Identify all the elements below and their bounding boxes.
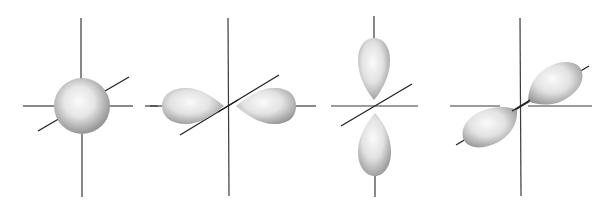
px-orbital-panel — [150, 18, 316, 196]
z-axis — [228, 18, 229, 196]
pz-orbital-panel — [331, 16, 418, 197]
pz-lobe-top — [358, 38, 390, 100]
px-lobe-left — [162, 88, 224, 124]
py-lobe-lower — [462, 107, 517, 147]
pz-lobe-bottom — [358, 113, 391, 176]
py-lobe-upper — [528, 62, 582, 105]
s-orbital-sphere — [54, 78, 110, 134]
orbital-diagram — [0, 0, 616, 216]
px-lobe-right — [236, 88, 296, 124]
y-axis — [105, 77, 129, 91]
py-orbital-panel — [450, 18, 592, 196]
s-orbital-panel — [23, 18, 158, 197]
